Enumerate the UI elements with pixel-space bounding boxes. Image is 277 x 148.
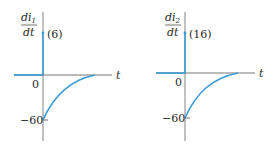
decay-curve: [43, 75, 95, 120]
x-axis-label: t: [259, 67, 264, 80]
min-label: −60: [20, 114, 43, 127]
impulse-label: (6): [47, 28, 63, 41]
ylabel-denominator: dt: [23, 26, 35, 39]
graph-2: di2 dt (16) 0 −60 t: [156, 11, 264, 141]
zero-label: 0: [32, 78, 39, 91]
impulse-dot: [42, 32, 45, 35]
impulse-dot: [184, 32, 187, 35]
ylabel-numerator: di1: [21, 11, 36, 25]
decay-curve: [185, 73, 238, 118]
diagram-canvas: di1 dt (6) 0 −60 t di2 dt (16) 0 −60 t: [0, 0, 277, 148]
graph-1: di1 dt (6) 0 −60 t: [14, 11, 121, 141]
min-label: −60: [162, 112, 185, 125]
impulse-label: (16): [189, 28, 212, 41]
ylabel-numerator: di2: [165, 11, 181, 25]
ylabel-denominator: dt: [167, 26, 179, 39]
x-axis-label: t: [116, 69, 121, 82]
zero-label: 0: [175, 76, 182, 89]
